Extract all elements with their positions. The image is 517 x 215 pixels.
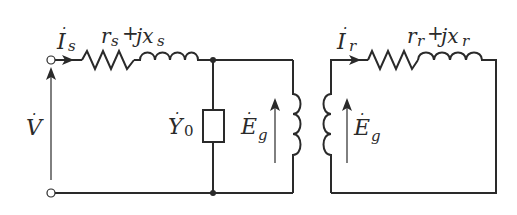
stator-impedance-x-subscript: s [157,32,165,50]
rotor-current-subscript: r [349,37,357,55]
rotor-emf-subscript: g [371,127,381,145]
admittance-y0-box [203,110,224,142]
stator-current-subscript: s [68,37,76,55]
input-terminal-top [47,56,55,64]
admittance-label: Y [168,114,185,139]
admittance-subscript: 0 [184,122,194,140]
stator-side-coil [293,60,301,193]
stator-resistor [82,51,134,69]
input-terminal-bottom [47,189,55,197]
equivalent-circuit-diagram: · I s r s + jx s · V · Y 0 · E g · I r r… [0,0,517,215]
rotor-current-label: I [336,29,347,54]
voltage-label: V [26,115,44,140]
stator-inductor [134,53,213,61]
rotor-resistor [368,51,418,69]
stator-emf-label: E [240,114,257,139]
stator-impedance-jx: jx [132,24,153,48]
rotor-impedance-r-subscript: r [417,32,425,50]
rotor-emf-label: E [353,115,370,140]
rotor-impedance-jx: jx [437,24,458,48]
rotor-impedance-x-subscript: r [462,32,470,50]
stator-current-label: I [56,29,67,54]
stator-emf-subscript: g [258,126,268,144]
stator-impedance-r-subscript: s [111,32,119,50]
